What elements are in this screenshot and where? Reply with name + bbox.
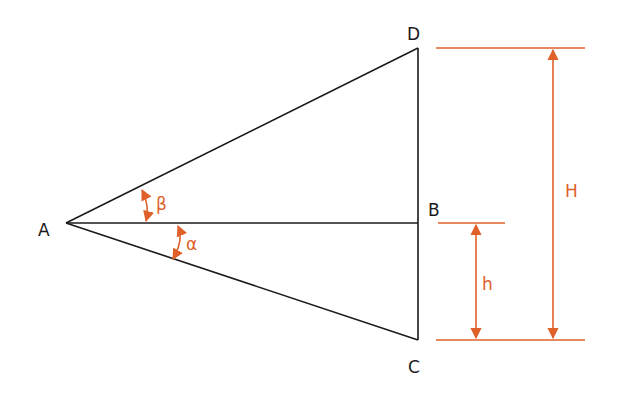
point-C-label: C [408, 357, 420, 377]
beta-label: β [156, 194, 167, 214]
triangulation-diagram: A D B C β α H h [0, 0, 618, 395]
point-A-label: A [38, 220, 50, 240]
alpha-label: α [186, 234, 197, 254]
H-label: H [565, 181, 578, 201]
point-D-label: D [407, 24, 420, 44]
alpha-arc-icon [173, 226, 180, 259]
beta-arc-icon [142, 190, 147, 221]
line-AD [66, 48, 418, 223]
line-AC [66, 223, 418, 340]
dimension-lines [436, 48, 585, 340]
h-label: h [482, 274, 493, 294]
triangle-lines [66, 48, 418, 340]
point-B-label: B [428, 200, 440, 220]
